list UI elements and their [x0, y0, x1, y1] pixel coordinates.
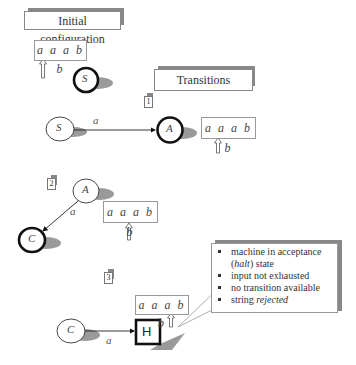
- step-1-label: 1: [144, 96, 153, 108]
- callout-item-rejected: string rejected: [231, 294, 333, 306]
- step-3-label: 3: [104, 272, 113, 284]
- state-label-h: H: [142, 324, 151, 339]
- edge-label-c-to-h: a: [106, 334, 112, 346]
- tape-head-arrow-1: [215, 138, 222, 153]
- state-label-a-step2: A: [82, 183, 89, 195]
- state-label-s-step1: S: [56, 121, 62, 133]
- callout-item-input-not-exhausted: input not exhausted: [231, 270, 333, 282]
- tape-head-arrow-0: [40, 59, 47, 78]
- input-tape-step1: a a a b b: [201, 117, 256, 139]
- input-tape-initial: a a a b b: [34, 40, 87, 61]
- input-tape-step2: a a a b b: [103, 201, 158, 223]
- callout-list: machine in acceptance(halt) state input …: [218, 246, 333, 306]
- edge-label-a-to-c: a: [70, 205, 76, 217]
- step-2-label: 2: [47, 178, 56, 190]
- halt-explanation-callout: machine in acceptance(halt) state input …: [211, 243, 338, 313]
- state-label-a-step1: A: [166, 122, 173, 134]
- callout-item-no-transition: no transition available: [231, 282, 333, 294]
- state-label-c-step2: C: [28, 232, 35, 244]
- state-label-c-step3: C: [67, 323, 74, 335]
- state-label-s-initial: S: [82, 72, 88, 84]
- edge-label-s-to-a: a: [93, 114, 99, 126]
- input-tape-step3: a a a b b: [135, 295, 189, 315]
- tape-head-arrow-3: [168, 313, 175, 327]
- callout-item-acceptance: machine in acceptance(halt) state: [231, 246, 333, 270]
